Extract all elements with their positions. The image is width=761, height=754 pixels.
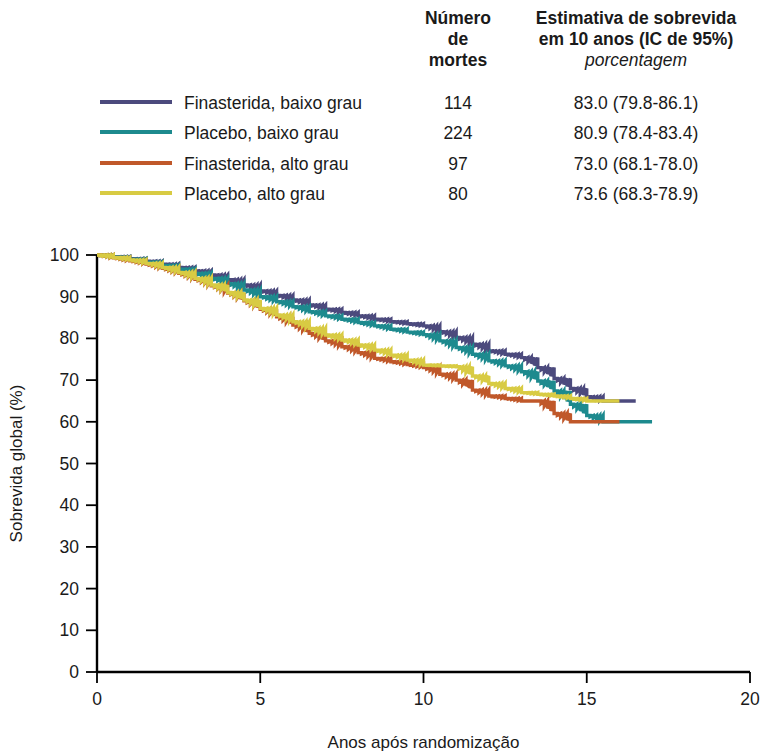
y-tick-label: 20 [60,579,80,599]
y-tick-label: 70 [60,370,80,390]
x-tick-label: 15 [577,689,596,709]
legend-deaths-value: 80 [404,179,512,209]
legend-estimate-value: 73.6 (68.3-78.9) [516,179,756,209]
survival-curve [97,255,636,401]
y-tick-label: 90 [60,287,80,307]
chart-svg: 0102030405060708090100 05101520 Sobrevid… [0,218,761,754]
y-axis-ticks: 0102030405060708090100 [50,245,97,682]
x-tick-label: 5 [255,689,265,709]
y-tick-label: 40 [60,495,80,515]
legend-estimate-value: 80.9 (78.4-83.4) [516,118,756,148]
survival-chart: 0102030405060708090100 05101520 Sobrevid… [0,218,761,754]
legend-deaths-value: 97 [404,149,512,179]
column-header-estimate-line2: em 10 anos (IC de 95%) [516,29,756,50]
column-header-deaths: Número de mortes [404,8,512,71]
y-tick-label: 50 [60,454,80,474]
legend-series-label: Finasterida, alto grau [184,149,348,179]
x-axis-ticks: 05101520 [92,672,760,709]
legend-row: Placebo, baixo grau 224 80.9 (78.4-83.4) [0,118,761,148]
column-header-deaths-line2: de [404,29,512,50]
legend-row: Finasterida, alto grau 97 73.0 (68.1-78.… [0,149,761,179]
legend-estimate-value: 73.0 (68.1-78.0) [516,149,756,179]
legend-row: Placebo, alto grau 80 73.6 (68.3-78.9) [0,179,761,209]
y-axis-title: Sobrevida global (%) [7,385,26,543]
legend-series-label: Placebo, baixo grau [184,118,339,148]
legend-estimate-value: 83.0 (79.8-86.1) [516,88,756,118]
y-tick-label: 80 [60,328,80,348]
x-tick-label: 10 [414,689,434,709]
x-tick-label: 20 [740,689,760,709]
legend-color-swatch [100,191,172,195]
column-header-estimate-unit: porcentagem [516,50,756,71]
legend-color-swatch [100,100,172,104]
legend-color-swatch [100,161,172,165]
legend-color-swatch [100,130,172,134]
y-tick-label: 100 [50,245,79,265]
column-header-estimate: Estimativa de sobrevida em 10 anos (IC d… [516,8,756,71]
x-axis-title: Anos após randomização [328,733,520,752]
column-header-deaths-line3: mortes [404,50,512,71]
legend-series-label: Placebo, alto grau [184,179,325,209]
column-header-estimate-line1: Estimativa de sobrevida [516,8,756,29]
y-tick-label: 10 [60,620,80,640]
survival-curves [97,255,652,422]
column-header-deaths-line1: Número [404,8,512,29]
legend-deaths-value: 224 [404,118,512,148]
legend-series-label: Finasterida, baixo grau [184,88,362,118]
y-tick-label: 30 [60,537,80,557]
legend-table: Número de mortes Estimativa de sobrevida… [0,0,761,218]
survival-curve [97,255,619,401]
legend-deaths-value: 114 [404,88,512,118]
y-tick-label: 60 [60,412,80,432]
y-tick-label: 0 [69,662,79,682]
legend-row: Finasterida, baixo grau 114 83.0 (79.8-8… [0,88,761,118]
x-tick-label: 0 [92,689,102,709]
